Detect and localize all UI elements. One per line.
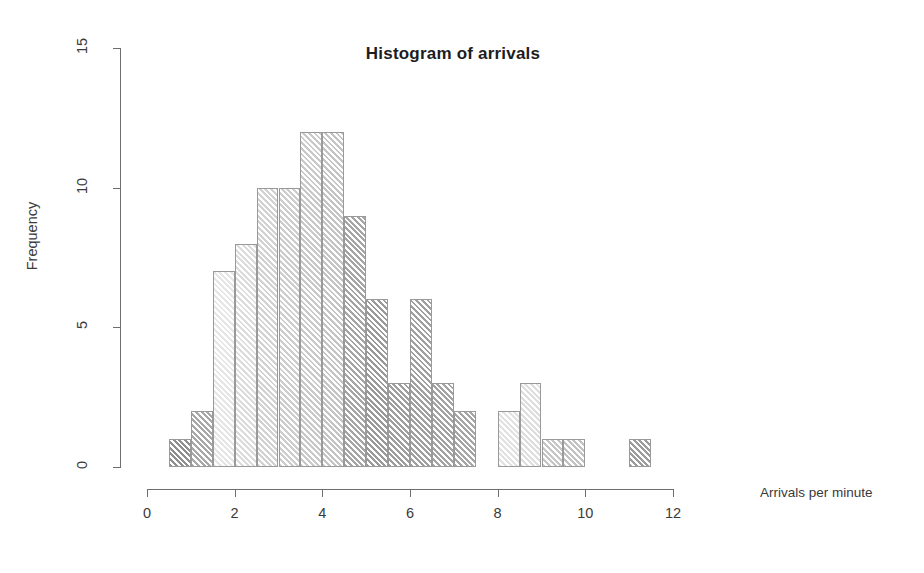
x-axis-tick-label: 2 — [215, 505, 255, 521]
histogram-bar — [366, 299, 388, 467]
y-axis-tick-label: 15 — [74, 26, 90, 66]
histogram-bar — [169, 439, 191, 467]
histogram-bar — [542, 439, 564, 467]
x-axis-tick — [498, 489, 499, 497]
histogram-bar — [344, 216, 366, 467]
y-axis-tick — [113, 467, 121, 468]
histogram-bar — [629, 439, 651, 467]
histogram-bar — [432, 383, 454, 467]
x-axis-tick-label: 6 — [390, 505, 430, 521]
y-axis-tick — [113, 327, 121, 328]
x-axis-tick-label: 12 — [653, 505, 693, 521]
histogram-bar — [454, 411, 476, 467]
histogram-plot: Histogram of arrivals 051015 Frequency 0… — [0, 0, 924, 573]
x-axis-tick — [147, 489, 148, 497]
x-axis-tick-label: 0 — [127, 505, 167, 521]
x-axis-tick-label: 10 — [565, 505, 605, 521]
y-axis-tick-label: 5 — [74, 305, 90, 345]
histogram-bar — [257, 188, 279, 467]
histogram-bar — [388, 383, 410, 467]
y-axis-tick — [113, 48, 121, 49]
x-axis-tick — [673, 489, 674, 497]
x-axis-tick — [410, 489, 411, 497]
y-axis-tick-label: 0 — [74, 445, 90, 485]
y-axis-title: Frequency — [24, 202, 40, 271]
histogram-bar — [300, 132, 322, 467]
histogram-bar — [322, 132, 344, 467]
histogram-bar — [279, 188, 301, 467]
histogram-bar — [410, 299, 432, 467]
x-axis-tick — [585, 489, 586, 497]
histogram-bar — [191, 411, 213, 467]
histogram-bar — [520, 383, 542, 467]
y-axis-tick — [113, 188, 121, 189]
histogram-bar — [563, 439, 585, 467]
plot-area: 051015 Frequency 024681012 Arrivals per … — [0, 0, 924, 573]
x-axis-tick — [322, 489, 323, 497]
x-axis-tick-label: 4 — [302, 505, 342, 521]
histogram-bar — [213, 271, 235, 467]
x-axis-tick-label: 8 — [478, 505, 518, 521]
x-axis-tick — [235, 489, 236, 497]
histogram-bar — [235, 244, 257, 467]
histogram-bar — [498, 411, 520, 467]
y-axis-line — [120, 48, 121, 467]
x-axis-title: Arrivals per minute — [760, 485, 873, 500]
y-axis-tick-label: 10 — [74, 166, 90, 206]
